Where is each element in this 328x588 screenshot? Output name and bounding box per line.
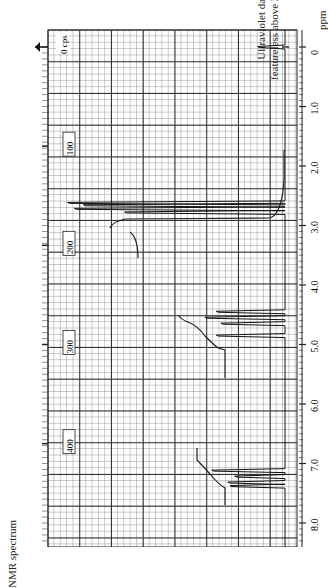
svg-text:5.0: 5.0 <box>309 340 320 353</box>
svg-text:0: 0 <box>309 50 320 55</box>
svg-text:400: 400 <box>65 439 75 453</box>
ppm-axis: 01.02.03.04.05.06.07.08.0 <box>299 30 320 547</box>
svg-text:100: 100 <box>65 141 75 155</box>
svg-text:1.0: 1.0 <box>309 102 320 115</box>
svg-text:4.0: 4.0 <box>309 281 320 294</box>
svg-text:8.0: 8.0 <box>309 519 320 532</box>
svg-text:2.0: 2.0 <box>309 162 320 175</box>
svg-text:7.0: 7.0 <box>309 459 320 472</box>
svg-text:3.0: 3.0 <box>309 221 320 234</box>
reference-marker <box>35 42 48 52</box>
cps-zero-text: 0 cps <box>59 35 69 54</box>
svg-text:300: 300 <box>65 340 75 354</box>
svg-text:6.0: 6.0 <box>309 400 320 413</box>
svg-text:200: 200 <box>65 240 75 254</box>
cps-zero-label: 0 cps <box>56 32 70 54</box>
